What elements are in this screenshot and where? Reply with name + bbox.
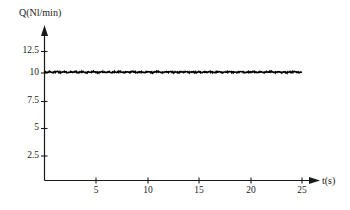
y-axis — [41, 25, 48, 181]
y-tick-label-12-5: 12.5 — [5, 46, 39, 56]
x-tick-label-25: 25 — [290, 186, 314, 196]
y-axis-label: Q(Nl/min) — [19, 8, 61, 18]
y-axis-arrowhead — [41, 25, 48, 36]
x-tick-label-10: 10 — [136, 186, 160, 196]
x-axis — [45, 177, 321, 184]
y-tick-label-5: 5 — [5, 123, 39, 133]
data-series-q — [45, 71, 303, 73]
x-tick-label-15: 15 — [187, 186, 211, 196]
x-tick-label-5: 5 — [84, 186, 108, 196]
x-axis-label: t(s) — [322, 176, 335, 186]
x-axis-arrowhead — [309, 177, 320, 184]
chart-figure: Q(Nl/min) t(s) 12.5 10 7.5 5 2.5 5 10 15… — [0, 0, 350, 210]
x-tick-label-20: 20 — [239, 186, 263, 196]
y-tick-label-10: 10 — [5, 68, 39, 78]
y-tick-label-2-5: 2.5 — [5, 151, 39, 161]
plot-canvas — [0, 0, 350, 210]
y-tick-label-7-5: 7.5 — [5, 96, 39, 106]
